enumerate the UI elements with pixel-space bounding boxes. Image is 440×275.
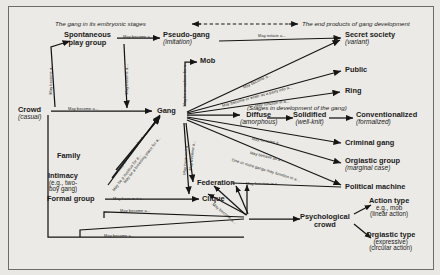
node-intimacy-sub2: boy gang) (48, 186, 78, 193)
node-spontaneous-label2: play group (64, 39, 111, 47)
node-criminal-label: Criminal gang (345, 139, 394, 147)
node-orgtype-sub2: (circular action) (366, 245, 415, 252)
node-conventionalized-sub: (formalized) (356, 119, 417, 126)
node-secret-sub: (variant) (345, 39, 395, 46)
node-public-label: Public (345, 66, 367, 74)
node-crowd-sub: (casual) (18, 114, 41, 121)
node-diffuse-sub: (amorphous) (240, 119, 277, 126)
edge-label-clique-lower: May become a... (120, 208, 150, 213)
node-family-label: Family (57, 152, 80, 160)
node-federation-label: Federation (197, 179, 235, 187)
node-formal-label: Formal group (47, 195, 95, 203)
edge-label-pseudo-to-secret: May initiate a... (258, 33, 286, 38)
node-orgiastic-group[interactable]: Orgiastic group (marginal case) (345, 157, 400, 172)
node-mob[interactable]: Mob (200, 57, 215, 65)
node-family[interactable]: Family (57, 152, 80, 160)
node-ring-label: Ring (345, 87, 361, 95)
node-criminal-gang[interactable]: Criminal gang (345, 139, 394, 147)
node-psych-label2: crowd (300, 221, 350, 229)
edge-label-formal-to-clique: May have in it a... (113, 196, 145, 201)
edge-label-spont-down-gang: May become a... (124, 64, 129, 94)
node-pseudo-sub: (imitation) (163, 39, 210, 46)
node-psychological-crowd[interactable]: Psychological crowd (300, 213, 350, 228)
node-federation[interactable]: Federation (197, 179, 235, 187)
node-pseudo-gang[interactable]: Pseudo-gang (imitation) (163, 31, 210, 46)
edge-label-crowd-to-gang: May become a... (68, 106, 98, 111)
header-right: The end products of gang development (302, 20, 410, 27)
node-formal-group[interactable]: Formal group (47, 195, 95, 203)
node-action-type[interactable]: Action type e.g., mob (linear action) (369, 197, 409, 218)
edge-label-crowd-up: May become a... (48, 64, 53, 94)
node-crowd[interactable]: Crowd (casual) (18, 106, 41, 121)
edge-label-spont-to-pseudo: May become a... (123, 34, 153, 39)
diagram-page: The gang in its embryonic stages The end… (0, 0, 440, 275)
node-orgiastic-sub: (marginal case) (345, 165, 400, 172)
node-diffuse[interactable]: Diffuse (amorphous) (240, 111, 277, 126)
node-political-label: Political machine (345, 183, 405, 191)
node-gang-label: Gang (157, 107, 176, 115)
node-mob-label: Mob (200, 57, 215, 65)
node-solidified[interactable]: Solidified (well-knit) (293, 111, 326, 126)
node-ring[interactable]: Ring (345, 87, 361, 95)
node-conventionalized[interactable]: Conventionalized (formalized) (356, 111, 417, 126)
header-left: The gang in its embryonic stages (55, 20, 146, 27)
edge-label-gang-to-mob: May be a nucleus for a... (182, 61, 187, 106)
node-gang[interactable]: Gang (157, 107, 176, 115)
node-spontaneous-play-group[interactable]: Spontaneous play group (64, 31, 111, 46)
node-political-machine[interactable]: Political machine (345, 183, 405, 191)
edge-label-formal-lower: May become a... (104, 233, 134, 238)
node-action-sub2: (linear action) (369, 211, 409, 218)
node-solidified-sub: (well-knit) (293, 119, 326, 126)
edge-label-fed-to-political: May function in a... (246, 181, 281, 186)
node-intimacy[interactable]: Intimacy (e.g., two- boy gang) (48, 172, 78, 193)
node-public[interactable]: Public (345, 66, 367, 74)
node-secret-society[interactable]: Secret society (variant) (345, 31, 395, 46)
node-orgiastic-type[interactable]: Orgiastic type (expressive) (circular ac… (366, 231, 415, 252)
